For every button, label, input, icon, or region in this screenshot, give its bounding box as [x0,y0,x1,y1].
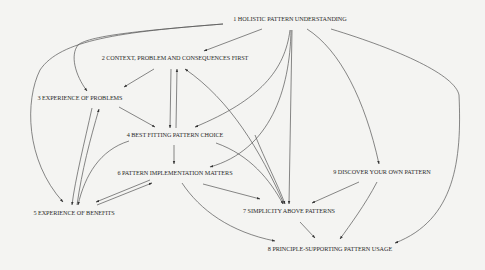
edge-1-to-4 [195,30,290,127]
edge-2-to-7 [255,135,285,204]
node-4-best-fitting-pattern-choice: 4 BEST FITTING PATTERN CHOICE [127,131,224,138]
node-8-principle-supporting-pattern-usage: 8 PRINCIPLE-SUPPORTING PATTERN USAGE [268,245,393,252]
nodes: 1 HOLISTIC PATTERN UNDERSTANDING 2 CONTE… [33,15,431,252]
edge-4-to-2 [176,69,177,128]
edge-1-to-9 [307,29,379,164]
edge-1-to-6 [210,30,291,167]
node-3-experience-of-problems: 3 EXPERIENCE OF PROBLEMS [38,94,124,101]
edge-2-to-4 [170,69,171,128]
node-6-pattern-implementation-matters: 6 PATTERN IMPLEMENTATION MATTERS [117,169,233,176]
edge-5-to-6 [97,183,152,205]
node-9-discover-your-own-pattern: 9 DISCOVER YOUR OWN PATTERN [333,168,431,175]
node-5-experience-of-benefits: 5 EXPERIENCE OF BENEFITS [33,209,115,216]
edge-1-to-8 [331,29,460,243]
edge-2-to-3 [124,69,154,87]
edge-3-to-4 [119,107,155,127]
edge-5-to-3 [77,109,99,205]
edge-6-to-5 [96,180,150,202]
node-2-context-problem-consequences: 2 CONTEXT, PROBLEM AND CONSEQUENCES FIRS… [102,54,249,61]
pattern-dependency-graph: 1 HOLISTIC PATTERN UNDERSTANDING 2 CONTE… [0,0,485,270]
edge-9-to-8 [340,182,377,239]
edge-9-to-7 [312,182,359,203]
edge-6-to-7 [203,184,260,199]
edge-7-to-8 [300,222,315,238]
edge-1-to-2 [204,29,262,51]
node-7-simplicity-above-patterns: 7 SIMPLICITY ABOVE PATTERNS [243,207,335,214]
node-1-holistic-pattern-understanding: 1 HOLISTIC PATTERN UNDERSTANDING [233,15,347,22]
